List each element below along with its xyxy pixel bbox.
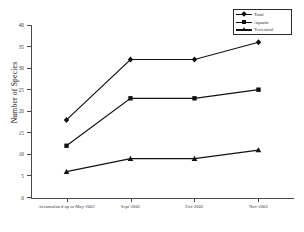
legend-marker-square-icon <box>236 19 252 26</box>
series-line-total <box>67 42 259 120</box>
legend-label: Aquatic <box>254 20 269 25</box>
legend-item-aquatic[interactable]: Aquatic <box>236 19 289 27</box>
legend-item-total[interactable]: Total <box>236 11 289 19</box>
data-point-diamond <box>192 57 197 63</box>
legend-label: Terrestrial <box>254 27 273 32</box>
legend-marker-diamond-icon <box>236 11 252 18</box>
legend-marker-triangle-icon <box>236 26 252 33</box>
data-point-square <box>64 144 68 148</box>
line-chart: Number of Species 4035302520151050 Accum… <box>0 0 304 232</box>
data-point-diamond <box>256 39 261 45</box>
chart-legend: TotalAquaticTerrestrial <box>233 9 292 35</box>
legend-label: Total <box>254 12 264 17</box>
data-point-square <box>128 96 132 100</box>
data-point-square <box>256 87 260 91</box>
data-point-square <box>192 96 196 100</box>
series-line-terrestrial <box>67 150 259 172</box>
series-line-aquatic <box>67 90 259 146</box>
legend-item-terrestrial[interactable]: Terrestrial <box>236 26 289 34</box>
